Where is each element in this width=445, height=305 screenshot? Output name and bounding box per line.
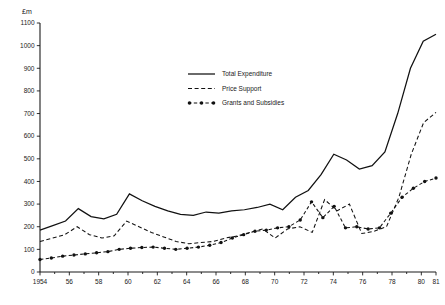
series-marker	[106, 250, 109, 253]
data-series-group	[38, 34, 437, 261]
legend-item-label: Grants and Subsidies	[222, 99, 285, 106]
x-axis-tick-label: 72	[300, 278, 308, 285]
series-marker	[219, 241, 222, 244]
series-marker	[344, 226, 347, 229]
legend-item-label: Price Support	[222, 85, 262, 93]
x-axis-tick-label: 80	[418, 278, 426, 285]
series-marker	[95, 251, 98, 254]
x-axis: 19545658606264666870727476788081	[33, 272, 440, 285]
series-marker	[185, 247, 188, 250]
chart-figure: £m 010020030040050060070080090010001100 …	[0, 0, 445, 305]
series-marker	[434, 176, 437, 179]
series-marker	[332, 205, 335, 208]
series-marker	[72, 253, 75, 256]
y-axis-tick-label: 0	[31, 268, 35, 275]
y-axis-tick-label: 600	[24, 132, 35, 139]
legend-swatch-marker	[212, 101, 216, 105]
series-marker	[366, 227, 369, 230]
y-axis-tick-label: 800	[24, 87, 35, 94]
series-marker	[355, 225, 358, 228]
series-marker	[151, 245, 154, 248]
series-marker	[253, 230, 256, 233]
x-axis-tick-label: 78	[388, 278, 396, 285]
y-axis-tick-label: 200	[24, 223, 35, 230]
x-axis-tick-label: 62	[154, 278, 162, 285]
series-marker	[276, 226, 279, 229]
y-axis-tick-label: 100	[24, 246, 35, 253]
x-axis-tick-label: 66	[212, 278, 220, 285]
x-axis-tick-label: 1954	[33, 278, 48, 285]
series-marker	[321, 216, 324, 219]
series-marker	[50, 256, 53, 259]
x-axis-tick-label: 68	[242, 278, 250, 285]
x-axis-tick-label: 76	[359, 278, 367, 285]
legend-swatch-marker	[200, 101, 204, 105]
x-axis-tick-label: 70	[271, 278, 279, 285]
y-axis-tick-label: 700	[24, 110, 35, 117]
series-marker	[163, 247, 166, 250]
series-marker	[412, 187, 415, 190]
y-axis-tick-label: 1000	[20, 42, 35, 49]
legend-swatch-marker	[188, 101, 192, 105]
series-line-total-expenditure	[40, 34, 436, 230]
y-axis: 010020030040050060070080090010001100	[20, 19, 40, 275]
y-axis-unit-label: £m	[22, 8, 32, 15]
legend-item: Grants and Subsidies	[188, 99, 285, 106]
series-marker	[287, 225, 290, 228]
series-line-price-support	[40, 112, 436, 243]
line-chart: £m 010020030040050060070080090010001100 …	[0, 0, 445, 305]
x-axis-tick-label: 60	[124, 278, 132, 285]
series-marker	[299, 218, 302, 221]
y-axis-tick-label: 400	[24, 178, 35, 185]
series-marker	[208, 244, 211, 247]
series-marker	[118, 248, 121, 251]
series-marker	[174, 248, 177, 251]
x-axis-tick-label: 56	[66, 278, 74, 285]
series-marker	[231, 236, 234, 239]
y-axis-tick-label: 900	[24, 65, 35, 72]
series-marker	[378, 226, 381, 229]
series-marker	[38, 258, 41, 261]
x-axis-tick-label: 74	[330, 278, 338, 285]
y-axis-tick-label: 500	[24, 155, 35, 162]
y-axis-tick-label: 1100	[21, 19, 35, 26]
x-axis-tick-label: 81	[432, 278, 440, 285]
series-line-grants-and-subsidies	[40, 178, 436, 259]
series-marker	[310, 200, 313, 203]
legend-item: Price Support	[188, 85, 262, 93]
series-marker	[61, 254, 64, 257]
series-marker	[400, 196, 403, 199]
series-marker	[84, 252, 87, 255]
series-marker	[129, 247, 132, 250]
x-axis-tick-label: 58	[95, 278, 103, 285]
x-axis-tick-label: 64	[183, 278, 191, 285]
series-marker	[197, 245, 200, 248]
series-marker	[423, 180, 426, 183]
chart-legend: Total ExpenditurePrice SupportGrants and…	[188, 70, 285, 106]
legend-item: Total Expenditure	[188, 70, 273, 78]
legend-item-label: Total Expenditure	[222, 70, 273, 78]
y-axis-unit-label-group: £m	[22, 8, 32, 15]
series-marker	[265, 228, 268, 231]
series-marker	[389, 211, 392, 214]
series-marker	[140, 246, 143, 249]
y-axis-tick-label: 300	[24, 200, 35, 207]
series-marker	[242, 233, 245, 236]
